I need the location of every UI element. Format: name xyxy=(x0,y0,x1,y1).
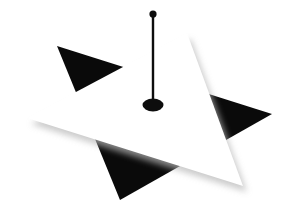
figure-svg xyxy=(0,0,287,211)
pin-head-dot xyxy=(149,10,156,17)
pin-base-ellipse xyxy=(143,99,164,112)
figure-canvas: Abstract figure: pin on overlapping tria… xyxy=(0,0,287,211)
